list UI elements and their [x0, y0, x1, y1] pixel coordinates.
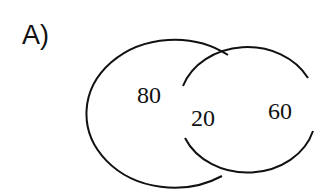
right-set-ellipse-top	[183, 47, 308, 86]
venn-diagram: 80 20 60	[0, 0, 334, 190]
left-set-value: 80	[137, 82, 161, 108]
right-set-value: 60	[268, 98, 292, 124]
right-set-ellipse-bottom	[185, 131, 313, 173]
intersection-value: 20	[191, 105, 215, 131]
